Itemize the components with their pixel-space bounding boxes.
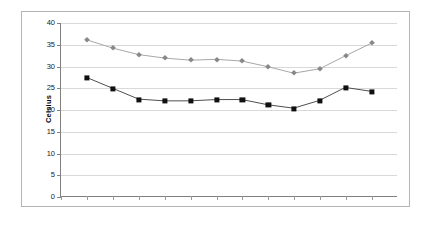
series-line-lower-series	[87, 77, 371, 108]
y-tick-label: 25	[47, 85, 55, 93]
data-point-lower-series	[266, 103, 271, 108]
data-point-lower-series	[369, 89, 374, 94]
x-tick-mark	[268, 196, 269, 200]
y-tick-label: 20	[47, 106, 55, 114]
y-tick-label: 35	[47, 41, 55, 49]
x-tick-mark	[242, 196, 243, 200]
x-tick-mark	[372, 196, 373, 200]
x-tick-mark	[87, 196, 88, 200]
y-tick-label: 15	[47, 128, 55, 136]
x-tick-mark	[139, 196, 140, 200]
plot-area: 0510152025303540	[60, 23, 397, 197]
y-tick-label: 40	[47, 19, 55, 27]
x-tick-mark	[61, 196, 62, 200]
y-tick-label: 5	[51, 172, 55, 180]
x-tick-mark	[165, 196, 166, 200]
data-point-lower-series	[162, 99, 167, 104]
data-point-lower-series	[214, 97, 219, 102]
x-tick-mark	[191, 196, 192, 200]
data-point-lower-series	[84, 75, 89, 80]
data-point-lower-series	[292, 106, 297, 111]
y-tick-label: 30	[47, 63, 55, 71]
data-point-lower-series	[318, 98, 323, 103]
data-point-lower-series	[344, 85, 349, 90]
x-tick-mark	[217, 196, 218, 200]
chart-frame: Celsius 0510152025303540	[21, 11, 410, 207]
x-tick-mark	[113, 196, 114, 200]
x-tick-mark	[294, 196, 295, 200]
y-tick-label: 0	[51, 193, 55, 201]
x-tick-mark	[320, 196, 321, 200]
data-point-lower-series	[240, 97, 245, 102]
data-point-lower-series	[110, 86, 115, 91]
x-tick-mark	[346, 196, 347, 200]
y-tick-label: 10	[47, 150, 55, 158]
data-point-lower-series	[136, 97, 141, 102]
data-point-lower-series	[188, 99, 193, 104]
series-line-upper-series	[87, 40, 371, 73]
